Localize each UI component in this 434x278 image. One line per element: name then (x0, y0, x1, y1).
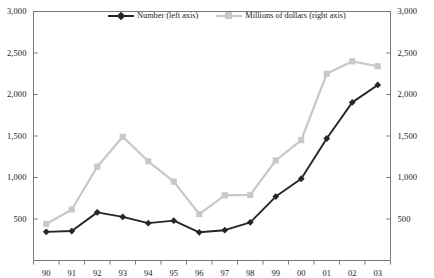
chart-legend: Number (left axis) Millions of dollars (… (108, 11, 346, 20)
legend-swatch-dollars-icon (216, 11, 242, 20)
x-axis-tick-label: 97 (213, 269, 237, 278)
legend-item-number: Number (left axis) (108, 11, 198, 20)
x-axis-tick-label: 90 (34, 269, 58, 278)
dual-axis-line-chart: 5001,0001,5002,0002,5003,000 5001,0001,5… (0, 0, 434, 278)
y-axis-right-tick-label: 2,000 (398, 90, 418, 99)
x-axis-tick-label: 98 (238, 269, 262, 278)
x-axis-tick-label: 93 (111, 269, 135, 278)
x-axis-tick-label: 92 (85, 269, 109, 278)
x-axis-tick-label: 91 (60, 269, 84, 278)
y-axis-right-tick-label: 1,000 (398, 173, 418, 182)
legend-item-dollars: Millions of dollars (right axis) (216, 11, 345, 20)
legend-label-dollars: Millions of dollars (right axis) (245, 11, 345, 20)
legend-swatch-number-icon (108, 11, 134, 20)
x-axis-tick-label: 03 (366, 269, 390, 278)
y-axis-left-tick-label: 2,500 (0, 49, 27, 58)
x-axis-tick-label: 01 (315, 269, 339, 278)
x-axis-tick-label: 02 (340, 269, 364, 278)
y-axis-right-tick-label: 1,500 (398, 132, 418, 141)
x-axis-tick-label: 94 (136, 269, 160, 278)
y-axis-right-tick-label: 500 (398, 215, 411, 224)
chart-axes (34, 12, 391, 265)
y-axis-left-tick-label: 1,500 (0, 132, 27, 141)
chart-series (43, 58, 381, 235)
square-marker-icon (225, 12, 232, 19)
x-axis-tick-label: 99 (264, 269, 288, 278)
plot-area (0, 0, 434, 278)
y-axis-right-tick-label: 2,500 (398, 49, 418, 58)
y-axis-left-tick-label: 1,000 (0, 173, 27, 182)
x-axis-tick-label: 96 (187, 269, 211, 278)
diamond-marker-icon (117, 12, 125, 20)
y-axis-left-tick-label: 3,000 (0, 7, 27, 16)
y-axis-left-tick-label: 500 (0, 215, 27, 224)
x-axis-tick-label: 95 (162, 269, 186, 278)
legend-label-number: Number (left axis) (137, 11, 198, 20)
x-axis-tick-label: 00 (289, 269, 313, 278)
y-axis-left-tick-label: 2,000 (0, 90, 27, 99)
y-axis-right-tick-label: 3,000 (398, 7, 418, 16)
